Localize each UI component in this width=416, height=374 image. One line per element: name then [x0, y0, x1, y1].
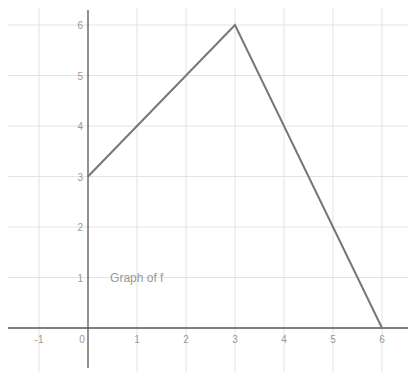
y-tick-label: 3 — [77, 172, 83, 183]
grid-lines — [8, 8, 408, 372]
y-tick-label: 2 — [77, 222, 83, 233]
y-tick-label: 6 — [77, 20, 83, 31]
x-tick-label: 0 — [79, 334, 85, 345]
x-tick-label: 5 — [330, 334, 336, 345]
x-tick-label: 4 — [281, 334, 287, 345]
axes — [8, 10, 408, 368]
y-tick-label: 1 — [77, 273, 83, 284]
y-tick-label: 4 — [77, 121, 83, 132]
graph-of-f-chart: -10123456123456 Graph of f — [0, 0, 416, 374]
x-tick-label: -1 — [35, 334, 44, 345]
y-tick-label: 5 — [77, 71, 83, 82]
x-tick-label: 2 — [183, 334, 189, 345]
x-tick-label: 6 — [379, 334, 385, 345]
graph-annotation: Graph of f — [110, 271, 164, 285]
x-tick-label: 1 — [134, 334, 140, 345]
x-tick-label: 3 — [232, 334, 238, 345]
